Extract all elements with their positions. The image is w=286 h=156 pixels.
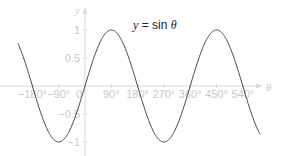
x-tick-label: 450° — [205, 88, 228, 100]
x-axis-arrow-icon — [256, 84, 262, 89]
y-tick-label: −1 — [67, 136, 80, 148]
chart-title: y = sin θ — [132, 18, 177, 32]
sine-chart: −180°−90°090°180°270°360°450°540°10.5−0.… — [0, 0, 286, 156]
y-axis-arrow-icon — [83, 8, 88, 14]
x-tick-label: 540° — [231, 88, 254, 100]
x-tick-label: 180° — [126, 88, 149, 100]
axes — [0, 8, 262, 156]
x-tick-label: 360° — [179, 88, 202, 100]
x-tick-label: −180° — [18, 88, 47, 100]
x-axis-label: θ — [266, 81, 272, 93]
y-tick-label: 1 — [74, 24, 80, 36]
x-tick-label: 270° — [153, 88, 176, 100]
x-tick-label: 90° — [103, 88, 120, 100]
y-axis-label: y — [74, 4, 80, 16]
y-tick-label: 0.5 — [65, 52, 80, 64]
chart-canvas: −180°−90°090°180°270°360°450°540°10.5−0.… — [0, 0, 286, 156]
x-tick-label: −90° — [47, 88, 70, 100]
